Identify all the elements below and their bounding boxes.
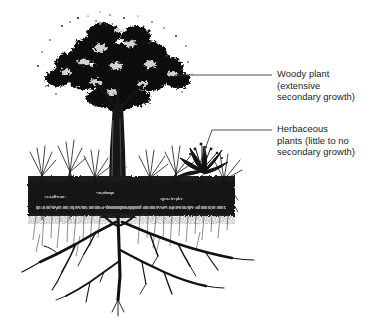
leader-lines [175,75,272,163]
label-herbaceous-plants: Herbaceous plants (little to no secondar… [277,123,377,158]
illustration-canvas [0,0,379,326]
botanical-diagram: Woody plant (extensive secondary growth)… [0,0,379,326]
label-woody-plant: Woody plant (extensive secondary growth) [277,68,377,103]
tree-root-system [22,216,254,316]
leader-line-herbaceous [200,130,272,163]
